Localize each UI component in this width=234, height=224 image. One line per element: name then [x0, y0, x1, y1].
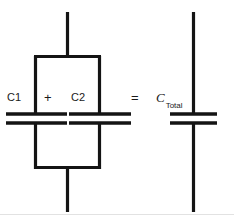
capacitor-parallel-diagram: C1 + C2 = CTotal — [0, 0, 234, 224]
capacitor-c1-label: C1 — [7, 92, 21, 103]
equivalent-capacitor-group — [170, 12, 217, 212]
plus-operator-label: + — [44, 91, 52, 104]
capacitor-ctotal-label: CTotal — [156, 91, 182, 110]
parallel-network-group — [6, 12, 131, 212]
circuit-schematic-canvas — [0, 0, 234, 224]
capacitor-c2-label: C2 — [71, 92, 85, 103]
ctotal-subscript: Total — [166, 101, 183, 110]
equals-operator-label: = — [131, 91, 139, 104]
ctotal-symbol: C — [156, 90, 165, 105]
